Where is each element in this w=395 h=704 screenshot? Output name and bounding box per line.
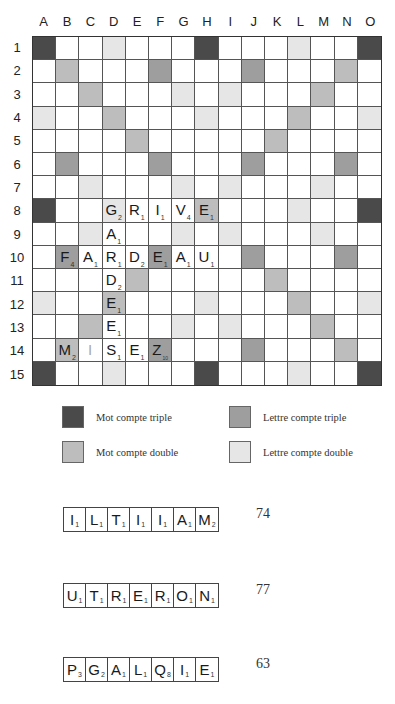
board-cell-C4[interactable] [79,107,102,130]
board-cell-B12[interactable] [56,292,79,315]
board-cell-E13[interactable] [126,315,149,338]
board-cell-H5[interactable] [195,130,218,153]
board-cell-K2[interactable] [265,60,288,83]
board-cell-M5[interactable] [311,130,334,153]
board-cell-B4[interactable] [56,107,79,130]
board-cell-C3[interactable] [79,83,102,106]
board-cell-L13[interactable] [288,315,311,338]
board-cell-F9[interactable] [149,223,172,246]
board-cell-A15[interactable] [33,362,56,385]
board-cell-L10[interactable] [288,246,311,269]
board-cell-H1[interactable] [195,37,218,60]
board-cell-B13[interactable] [56,315,79,338]
board-cell-H2[interactable] [195,60,218,83]
board-cell-M1[interactable] [311,37,334,60]
board-cell-I10[interactable] [219,246,242,269]
board-cell-C6[interactable] [79,153,102,176]
board-cell-D8[interactable]: G2 [103,199,126,222]
board-cell-N4[interactable] [335,107,358,130]
board-cell-M15[interactable] [311,362,334,385]
board-cell-K7[interactable] [265,176,288,199]
board-cell-L15[interactable] [288,362,311,385]
board-cell-B8[interactable] [56,199,79,222]
board-cell-O9[interactable] [358,223,381,246]
board-cell-J7[interactable] [242,176,265,199]
board-cell-I6[interactable] [219,153,242,176]
board-cell-H8[interactable]: E1 [195,199,218,222]
board-cell-C8[interactable] [79,199,102,222]
board-cell-O15[interactable] [358,362,381,385]
board-cell-M4[interactable] [311,107,334,130]
board-cell-N9[interactable] [335,223,358,246]
board-cell-G12[interactable] [172,292,195,315]
board-cell-O8[interactable] [358,199,381,222]
board-cell-M8[interactable] [311,199,334,222]
board-cell-F11[interactable] [149,269,172,292]
board-cell-D2[interactable] [103,60,126,83]
board-cell-J8[interactable] [242,199,265,222]
board-cell-C11[interactable] [79,269,102,292]
board-cell-B9[interactable] [56,223,79,246]
board-cell-E2[interactable] [126,60,149,83]
board-cell-F15[interactable] [149,362,172,385]
board-cell-J3[interactable] [242,83,265,106]
board-cell-F1[interactable] [149,37,172,60]
board-cell-C13[interactable] [79,315,102,338]
board-cell-M7[interactable] [311,176,334,199]
board-cell-B6[interactable] [56,153,79,176]
board-cell-M2[interactable] [311,60,334,83]
board-cell-A10[interactable] [33,246,56,269]
board-cell-D9[interactable]: A1 [103,223,126,246]
board-cell-K6[interactable] [265,153,288,176]
board-cell-H12[interactable] [195,292,218,315]
board-cell-I1[interactable] [219,37,242,60]
board-cell-D14[interactable]: S1 [103,339,126,362]
board-cell-F4[interactable] [149,107,172,130]
board-cell-B11[interactable] [56,269,79,292]
board-cell-G2[interactable] [172,60,195,83]
board-cell-C15[interactable] [79,362,102,385]
board-cell-N10[interactable] [335,246,358,269]
board-cell-N12[interactable] [335,292,358,315]
board-cell-F14[interactable]: Z10 [149,339,172,362]
board-cell-L4[interactable] [288,107,311,130]
board-cell-I4[interactable] [219,107,242,130]
board-cell-J2[interactable] [242,60,265,83]
board-cell-M3[interactable] [311,83,334,106]
board-cell-L3[interactable] [288,83,311,106]
board-cell-I14[interactable] [219,339,242,362]
board-cell-J13[interactable] [242,315,265,338]
board-cell-H7[interactable] [195,176,218,199]
board-cell-O14[interactable] [358,339,381,362]
board-cell-A14[interactable] [33,339,56,362]
board-cell-F13[interactable] [149,315,172,338]
board-cell-D4[interactable] [103,107,126,130]
board-cell-H3[interactable] [195,83,218,106]
board-cell-E1[interactable] [126,37,149,60]
board-cell-I15[interactable] [219,362,242,385]
board-cell-I7[interactable] [219,176,242,199]
board-cell-F12[interactable] [149,292,172,315]
board-cell-K10[interactable] [265,246,288,269]
board-cell-O5[interactable] [358,130,381,153]
board-cell-H10[interactable]: U1 [195,246,218,269]
board-cell-K9[interactable] [265,223,288,246]
board-cell-O12[interactable] [358,292,381,315]
board-cell-M10[interactable] [311,246,334,269]
board-cell-O3[interactable] [358,83,381,106]
board-cell-E6[interactable] [126,153,149,176]
board-cell-A13[interactable] [33,315,56,338]
board-cell-A7[interactable] [33,176,56,199]
board-cell-J10[interactable] [242,246,265,269]
board-cell-N8[interactable] [335,199,358,222]
board-cell-E11[interactable] [126,269,149,292]
board-cell-C12[interactable] [79,292,102,315]
board-cell-O11[interactable] [358,269,381,292]
board-cell-K12[interactable] [265,292,288,315]
board-cell-B10[interactable]: F4 [56,246,79,269]
board-cell-M6[interactable] [311,153,334,176]
board-cell-A4[interactable] [33,107,56,130]
board-cell-K8[interactable] [265,199,288,222]
board-cell-D13[interactable]: E1 [103,315,126,338]
board-cell-A3[interactable] [33,83,56,106]
